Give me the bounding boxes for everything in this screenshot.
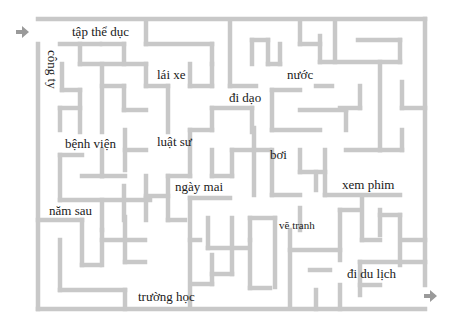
- word-di-dao: đi dạo: [229, 91, 261, 104]
- word-xem-phim: xem phim: [342, 178, 394, 191]
- word-di-du-lich: đi du lịch: [347, 267, 396, 280]
- word-boi: bơi: [270, 148, 287, 161]
- word-cong-ty: công ty: [46, 50, 59, 89]
- word-benh-vien: bệnh viện: [65, 137, 116, 150]
- word-lai-xe: lái xe: [157, 68, 186, 81]
- word-ngay-mai: ngày mai: [175, 180, 223, 193]
- word-ve-tranh: vẽ tranh: [279, 220, 315, 231]
- word-nam-sau: năm sau: [49, 204, 92, 217]
- word-nuoc: nước: [287, 68, 313, 81]
- word-luat-su: luật sư: [157, 135, 192, 148]
- word-truong-hoc: trường học: [138, 290, 195, 303]
- exit-arrow-icon: [424, 290, 437, 302]
- word-tap-the-duc: tập thể dục: [72, 25, 129, 38]
- entry-arrow-icon: [16, 26, 29, 38]
